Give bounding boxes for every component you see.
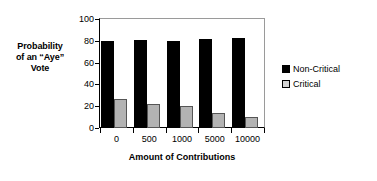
- bar: [245, 117, 258, 128]
- x-tick-mark: [198, 128, 199, 133]
- y-tick-mark: [95, 128, 99, 129]
- x-tick-mark: [166, 128, 167, 133]
- legend-label: Non-Critical: [293, 64, 340, 74]
- x-tick-mark: [100, 128, 101, 133]
- bar: [114, 99, 127, 128]
- bar: [232, 38, 245, 128]
- x-tick-mark: [133, 128, 134, 133]
- bar: [167, 41, 180, 128]
- bar-chart-figure: Probability of an “Aye” Vote 02040608010…: [0, 0, 377, 181]
- legend-item: Critical: [282, 76, 340, 91]
- y-axis-title: Probability of an “Aye” Vote: [2, 41, 78, 74]
- black-square-swatch: [282, 65, 290, 73]
- y-axis-title-line-3: Vote: [2, 63, 78, 74]
- bar: [180, 106, 193, 128]
- y-axis-title-line-1: Probability: [2, 41, 78, 52]
- bar: [212, 113, 225, 128]
- bar: [101, 41, 114, 128]
- x-tick-label: 10000: [217, 134, 278, 144]
- gray-square-swatch: [282, 80, 290, 88]
- bars-layer: [100, 19, 264, 128]
- legend-label: Critical: [293, 79, 321, 89]
- y-axis-title-line-2: of an “Aye”: [2, 52, 78, 63]
- y-tick-label: 60: [70, 59, 94, 68]
- y-tick-label: 20: [70, 102, 94, 111]
- legend-item: Non-Critical: [282, 61, 340, 76]
- x-tick-mark: [264, 128, 265, 133]
- y-tick-mark: [95, 84, 99, 85]
- y-tick-label: 100: [70, 15, 94, 24]
- y-tick-mark: [95, 19, 99, 20]
- y-tick-mark: [95, 41, 99, 42]
- bar: [199, 39, 212, 128]
- bar: [134, 40, 147, 128]
- x-tick-mark: [231, 128, 232, 133]
- bar: [147, 104, 160, 128]
- chart-legend: Non-CriticalCritical: [282, 61, 340, 91]
- y-tick-label: 80: [70, 37, 94, 46]
- y-tick-mark: [95, 106, 99, 107]
- y-tick-mark: [95, 63, 99, 64]
- x-axis-title: Amount of Contributions: [99, 152, 265, 162]
- y-tick-label: 40: [70, 80, 94, 89]
- y-tick-label: 0: [70, 124, 94, 133]
